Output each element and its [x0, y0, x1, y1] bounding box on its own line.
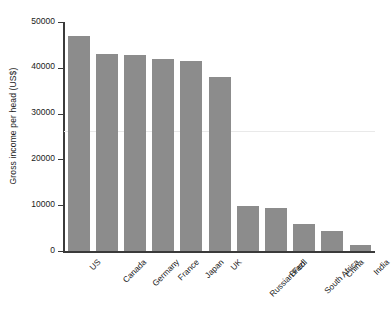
bar-series: [65, 22, 375, 251]
bar: [265, 208, 287, 251]
x-axis-tick-label: France: [176, 257, 201, 282]
x-axis-tick-label: China: [344, 257, 366, 279]
y-axis-tick-label: 0: [50, 245, 55, 255]
y-axis-tick: 20000: [58, 159, 63, 160]
x-axis-tick-label: US: [87, 257, 102, 272]
plot-area: 01000020000300004000050000: [63, 22, 375, 252]
y-axis-title: Gross income per head (US$): [4, 0, 22, 252]
x-axis-tick-label: Japan: [203, 257, 226, 280]
bar: [293, 224, 315, 251]
y-axis-tick: 30000: [58, 114, 63, 115]
x-axis-tick-label: Canada: [120, 257, 148, 285]
y-axis-tick-label: 40000: [31, 61, 55, 71]
x-axis-labels: USCanadaGermanyFranceJapanUKRussian Fed.…: [63, 252, 375, 316]
bar: [321, 231, 343, 251]
y-axis-tick-label: 20000: [31, 153, 55, 163]
bar: [350, 245, 372, 251]
bar: [180, 61, 202, 251]
bar: [237, 206, 259, 251]
bar: [124, 55, 146, 251]
y-axis-tick-label: 10000: [31, 199, 55, 209]
x-axis-tick-label: Brazil: [287, 257, 309, 279]
y-axis-tick-label: 50000: [31, 16, 55, 26]
y-axis-tick-label: 30000: [31, 107, 55, 117]
x-axis-tick-label: UK: [228, 257, 243, 272]
bar: [152, 59, 174, 251]
x-axis-tick-label: India: [371, 257, 391, 277]
y-axis-tick: 40000: [58, 68, 63, 69]
y-axis-tick: 10000: [58, 205, 63, 206]
y-axis-tick: 50000: [58, 22, 63, 23]
bar: [209, 77, 231, 251]
bar: [96, 54, 118, 251]
bar: [68, 36, 90, 251]
